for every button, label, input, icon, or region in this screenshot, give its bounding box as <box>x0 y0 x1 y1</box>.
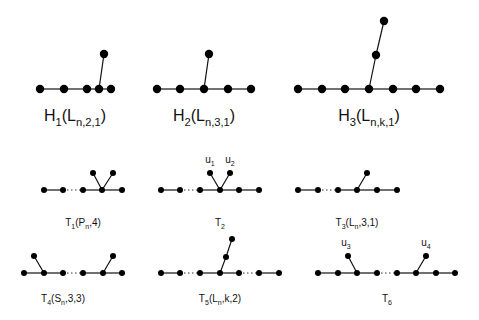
t1-vertex <box>41 187 47 193</box>
h3-vertex <box>436 85 444 93</box>
h1-pendant-edge <box>99 54 104 89</box>
t5-vertex <box>158 270 164 276</box>
h2-vertex <box>224 85 232 93</box>
t3-vertex <box>354 187 360 193</box>
t4-label: T4(Sn,3,3) <box>41 293 85 306</box>
t4-vertex <box>100 270 106 276</box>
h2-vertex <box>247 85 255 93</box>
h3-vertex <box>365 85 373 93</box>
t4-vertex <box>80 270 86 276</box>
t5-pendant-vertex <box>229 236 235 242</box>
t1-vertex <box>60 187 66 193</box>
t4-pendant-vertex <box>31 253 37 259</box>
h3-vertex <box>341 85 349 93</box>
t3-vertex <box>315 187 321 193</box>
t4-vertex <box>60 270 66 276</box>
h2-vertex <box>200 85 208 93</box>
t4-vertex <box>21 270 27 276</box>
h1-pendant-vertex <box>100 50 108 58</box>
h1-vertex <box>83 85 91 93</box>
t5-vertex <box>256 270 262 276</box>
h3-vertex <box>389 85 397 93</box>
t1-vertex <box>80 187 86 193</box>
t6-vertex <box>354 270 360 276</box>
t2-vertex-label: u2 <box>225 154 235 167</box>
h1-vertex <box>95 85 103 93</box>
t6-vertex <box>315 270 321 276</box>
t2-vertex <box>158 187 164 193</box>
t5-vertex <box>217 270 223 276</box>
t6-pendant-vertex <box>423 253 429 259</box>
h1-vertex <box>107 85 115 93</box>
t2-vertex-label: u1 <box>205 154 215 167</box>
t5-pendant-vertex <box>223 254 229 260</box>
t3-vertex <box>394 187 400 193</box>
t2-label: T2 <box>215 217 225 230</box>
t5-vertex <box>197 270 203 276</box>
t6-vertex <box>452 270 458 276</box>
t2-vertex <box>197 187 203 193</box>
t3-vertex <box>374 187 380 193</box>
h3-pendant-vertex <box>372 51 380 59</box>
t2-pendant-vertex <box>207 170 213 176</box>
graph-figure: H1(Ln,2,1)H2(Ln,3,1)H3(Ln,k,1)T1(Pn,4)u1… <box>0 0 479 320</box>
h1-vertex <box>60 85 68 93</box>
h1-label: H1(Ln,2,1) <box>44 107 106 128</box>
t2-vertex <box>256 187 262 193</box>
t4-vertex <box>119 270 125 276</box>
t3-pendant-vertex <box>364 170 370 176</box>
t6-vertex <box>374 270 380 276</box>
h3-vertex <box>412 85 420 93</box>
t6-vertex-label: u4 <box>421 237 431 250</box>
t1-pendant-vertex <box>110 170 116 176</box>
t1-pendant-vertex <box>90 170 96 176</box>
t3-label: T3(Ln,3,1) <box>336 217 379 230</box>
t6-vertex <box>394 270 400 276</box>
t6-pendant-vertex <box>345 253 351 259</box>
t4-vertex <box>41 270 47 276</box>
h3-pendant-edge <box>376 21 384 55</box>
h3-label: H3(Ln,k,1) <box>338 107 400 128</box>
t5-vertex <box>276 270 282 276</box>
t6-vertex <box>433 270 439 276</box>
t6-label: T6 <box>382 293 392 306</box>
t4-pendant-vertex <box>110 253 116 259</box>
t1-vertex <box>99 187 105 193</box>
t3-vertex <box>295 187 301 193</box>
t2-pendant-vertex <box>227 170 233 176</box>
h3-vertex <box>318 85 326 93</box>
t6-vertex-label: u3 <box>341 237 351 250</box>
h3-pendant-vertex <box>380 17 388 25</box>
h3-vertex <box>294 85 302 93</box>
h2-vertex <box>153 85 161 93</box>
t1-pendant-edge <box>102 173 113 190</box>
h3-pendant-edge <box>369 55 376 89</box>
h2-pendant-vertex <box>205 50 213 58</box>
h1-vertex <box>36 85 44 93</box>
t2-vertex <box>217 187 223 193</box>
t1-vertex <box>119 187 125 193</box>
t2-vertex <box>177 187 183 193</box>
t3-vertex <box>335 187 341 193</box>
t6-vertex <box>413 270 419 276</box>
h2-pendant-edge <box>204 54 209 89</box>
t5-vertex <box>177 270 183 276</box>
t5-label: T5(Ln,k,2) <box>199 293 241 306</box>
t2-vertex <box>236 187 242 193</box>
t1-label: T1(Pn,4) <box>65 217 101 230</box>
t6-vertex <box>335 270 341 276</box>
h2-label: H2(Ln,3,1) <box>173 107 235 128</box>
t5-vertex <box>236 270 242 276</box>
h2-vertex <box>176 85 184 93</box>
